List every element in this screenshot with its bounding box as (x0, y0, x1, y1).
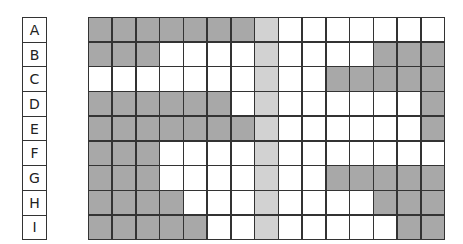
grid-cell-c-13 (374, 67, 396, 90)
grid-cell-d-8 (255, 92, 277, 115)
grid-cell-c-15 (422, 67, 444, 90)
grid-cell-e-6 (208, 117, 230, 140)
grid-cell-g-5 (184, 166, 206, 189)
grid-cell-e-5 (184, 117, 206, 140)
grid-cell-h-11 (327, 191, 349, 214)
grid-cell-h-6 (208, 191, 230, 214)
row-label-a: A (22, 18, 47, 43)
grid-cell-h-3 (137, 191, 159, 214)
grid-cell-b-6 (208, 43, 230, 66)
grid-cell-e-9 (279, 117, 301, 140)
grid-cell-c-7 (232, 67, 254, 90)
grid-cell-a-8 (255, 18, 277, 41)
grid-cell-i-14 (398, 216, 420, 239)
grid-cell-g-6 (208, 166, 230, 189)
grid-cell-f-11 (327, 142, 349, 165)
grid-cell-e-15 (422, 117, 444, 140)
grid-cell-d-10 (303, 92, 325, 115)
grid-cell-a-14 (398, 18, 420, 41)
grid-cell-h-2 (113, 191, 135, 214)
grid-cell-f-13 (374, 142, 396, 165)
grid-cell-c-10 (303, 67, 325, 90)
grid-cell-f-15 (422, 142, 444, 165)
grid-cell-i-3 (137, 216, 159, 239)
grid-cell-a-12 (350, 18, 372, 41)
grid-cell-h-12 (350, 191, 372, 214)
grid-cell-b-11 (327, 43, 349, 66)
grid-cell-b-15 (422, 43, 444, 66)
grid-cell-i-8 (255, 216, 277, 239)
grid-cell-g-3 (137, 166, 159, 189)
grid-cell-h-7 (232, 191, 254, 214)
grid-cell-d-1 (89, 92, 111, 115)
grid-cell-g-8 (255, 166, 277, 189)
grid-cell-g-4 (160, 166, 182, 189)
grid-cell-h-14 (398, 191, 420, 214)
grid-cell-e-1 (89, 117, 111, 140)
grid-cell-f-5 (184, 142, 206, 165)
grid-cell-c-12 (350, 67, 372, 90)
grid-cell-i-4 (160, 216, 182, 239)
grid-cell-a-10 (303, 18, 325, 41)
grid-cell-c-6 (208, 67, 230, 90)
grid-cell-e-12 (350, 117, 372, 140)
grid-cell-f-1 (89, 142, 111, 165)
grid-cell-b-1 (89, 43, 111, 66)
grid-cell-i-6 (208, 216, 230, 239)
grid-cell-g-12 (350, 166, 372, 189)
grid-cell-g-7 (232, 166, 254, 189)
grid-cell-a-1 (89, 18, 111, 41)
grid-cell-d-9 (279, 92, 301, 115)
grid-cell-i-13 (374, 216, 396, 239)
grid-cell-b-14 (398, 43, 420, 66)
grid-cell-d-13 (374, 92, 396, 115)
grid-cell-g-13 (374, 166, 396, 189)
grid-cell-g-14 (398, 166, 420, 189)
grid-cell-f-3 (137, 142, 159, 165)
grid-cell-e-14 (398, 117, 420, 140)
row-label-e: E (22, 117, 47, 142)
grid-cell-c-5 (184, 67, 206, 90)
grid-cell-e-8 (255, 117, 277, 140)
grid-cell-c-1 (89, 67, 111, 90)
grid-cell-f-6 (208, 142, 230, 165)
grid-cell-b-7 (232, 43, 254, 66)
grid-cell-f-12 (350, 142, 372, 165)
grid-cell-h-8 (255, 191, 277, 214)
grid-cell-h-1 (89, 191, 111, 214)
grid-cell-h-10 (303, 191, 325, 214)
grid-cell-d-7 (232, 92, 254, 115)
grid-cell-e-10 (303, 117, 325, 140)
grid-cell-c-11 (327, 67, 349, 90)
row-label-b: B (22, 43, 47, 68)
grid-cell-h-9 (279, 191, 301, 214)
grid-cell-i-11 (327, 216, 349, 239)
grid-cell-c-14 (398, 67, 420, 90)
row-label-c: C (22, 67, 47, 92)
row-label-f: F (22, 141, 47, 166)
grid-cell-h-5 (184, 191, 206, 214)
grid-cell-e-4 (160, 117, 182, 140)
grid-cell-g-2 (113, 166, 135, 189)
grid-cell-h-13 (374, 191, 396, 214)
grid-cell-i-5 (184, 216, 206, 239)
grid-cell-c-3 (137, 67, 159, 90)
grid-cell-b-5 (184, 43, 206, 66)
grid-cell-d-6 (208, 92, 230, 115)
grid-cell-e-7 (232, 117, 254, 140)
grid-cell-c-9 (279, 67, 301, 90)
grid-cell-d-15 (422, 92, 444, 115)
grid-cell-a-13 (374, 18, 396, 41)
grid-cell-h-4 (160, 191, 182, 214)
grid-cell-b-2 (113, 43, 135, 66)
grid-cell-e-11 (327, 117, 349, 140)
row-label-d: D (22, 92, 47, 117)
grid-cell-c-2 (113, 67, 135, 90)
grid-cell-a-7 (232, 18, 254, 41)
grid-cell-d-4 (160, 92, 182, 115)
grid-cell-g-9 (279, 166, 301, 189)
grid-cell-g-10 (303, 166, 325, 189)
grid-cell-e-13 (374, 117, 396, 140)
grid-cell-e-2 (113, 117, 135, 140)
grid-cell-g-11 (327, 166, 349, 189)
